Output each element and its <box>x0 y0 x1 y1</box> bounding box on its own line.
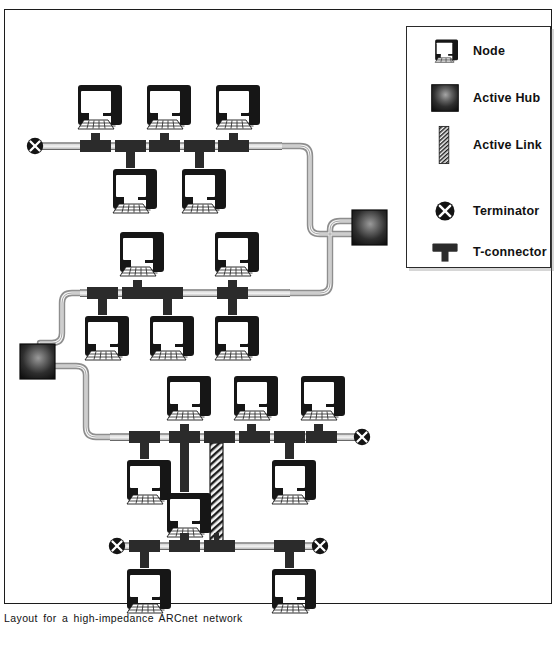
node-icon <box>80 316 129 360</box>
active-hub-icon <box>425 78 465 118</box>
legend-item-terminator: Terminator <box>407 191 552 231</box>
figure-caption: Layout for a high-impedance ARCnet netwo… <box>4 612 524 624</box>
active-link-icon <box>425 125 465 165</box>
segment-2 <box>80 232 290 360</box>
node-icon <box>73 85 122 129</box>
node-icon <box>142 85 191 129</box>
t-connector-icon <box>425 232 465 272</box>
legend-label-active-hub: Active Hub <box>473 91 540 105</box>
node-icon <box>229 376 278 420</box>
legend-item-active-hub: Active Hub <box>407 78 552 118</box>
node-icon <box>210 232 259 276</box>
terminator-icon <box>27 138 43 154</box>
node-icon <box>210 316 259 360</box>
node-icon <box>122 569 171 613</box>
node-icon <box>211 85 260 129</box>
node-icon <box>267 569 316 613</box>
t-connectors <box>129 540 305 552</box>
node-icon <box>145 316 194 360</box>
node-icon <box>425 31 465 71</box>
active-link-segment <box>210 443 223 543</box>
legend: Node Active Hub <box>406 26 551 268</box>
node-icon <box>115 232 164 276</box>
t-connectors <box>80 140 249 152</box>
legend-label-active-link: Active Link <box>473 138 542 152</box>
node-icon <box>267 460 316 504</box>
legend-item-t-connector: T-connector <box>407 232 552 272</box>
legend-item-node: Node <box>407 31 552 71</box>
segment-4 <box>109 533 328 613</box>
terminator-icon <box>354 429 370 445</box>
node-icon <box>162 376 211 420</box>
legend-item-active-link: Active Link <box>407 125 552 165</box>
node-icon <box>296 376 345 420</box>
node-icon <box>108 169 157 213</box>
segment-3 <box>110 376 370 537</box>
legend-label-terminator: Terminator <box>473 204 539 218</box>
t-connectors <box>87 287 248 299</box>
figure-page: Node Active Hub <box>0 0 558 647</box>
node-icon <box>122 460 171 504</box>
terminator-icon <box>312 538 328 554</box>
terminator-icon <box>425 191 465 231</box>
active-hub-icon <box>352 210 387 245</box>
segment-1 <box>27 85 282 213</box>
legend-label-t-connector: T-connector <box>473 245 547 259</box>
node-icon <box>177 169 226 213</box>
active-hub-icon <box>20 344 55 379</box>
legend-label-node: Node <box>473 44 505 58</box>
terminator-icon <box>109 538 125 554</box>
node-icon <box>162 493 211 537</box>
